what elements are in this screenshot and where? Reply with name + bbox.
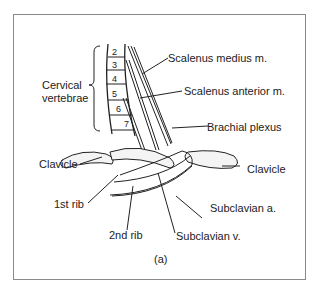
label-subclavian-vein: Subclavian v. — [176, 230, 241, 242]
svg-text:2: 2 — [112, 47, 117, 57]
label-first-rib: 1st rib — [54, 198, 84, 210]
anatomy-illustration: 2 3 4 5 6 7 — [0, 0, 319, 295]
svg-text:3: 3 — [112, 60, 117, 70]
figure-caption: (a) — [154, 253, 167, 265]
label-scalenus-medius: Scalenus medius m. — [168, 52, 267, 64]
label-clavicle-left: Clavicle — [39, 158, 78, 170]
label-scalenus-anterior: Scalenus anterior m. — [184, 85, 285, 97]
label-cervical: Cervical — [42, 79, 82, 91]
svg-text:7: 7 — [124, 119, 129, 129]
cervical-brace — [89, 46, 100, 131]
label-brachial-plexus: Brachial plexus — [207, 121, 282, 133]
label-clavicle-right: Clavicle — [247, 163, 286, 175]
label-second-rib: 2nd rib — [109, 229, 143, 241]
label-subclavian-artery: Subclavian a. — [210, 202, 276, 214]
svg-text:6: 6 — [116, 104, 121, 114]
svg-text:5: 5 — [112, 89, 117, 99]
svg-text:4: 4 — [112, 74, 117, 84]
label-vertebrae: vertebrae — [42, 92, 88, 104]
